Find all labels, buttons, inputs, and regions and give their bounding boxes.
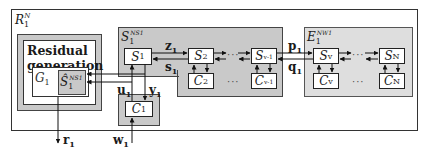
signal-z1: z1 [165,40,177,54]
signal-s1: s1 [165,61,177,75]
ellipsis-c-row-1: ··· [227,76,240,87]
signal-y1: y1 [149,84,162,98]
signal-u1: u1 [117,84,131,98]
signal-r1: r1 [63,134,75,148]
ellipsis-s-row-2: ··· [352,49,365,60]
connection-lines [0,0,427,149]
signal-p1: p1 [288,40,302,54]
ellipsis-s-row-1: ··· [227,49,240,60]
ellipsis-c-row-2: ··· [352,76,365,87]
signal-q1: q1 [288,61,302,75]
signal-w1: w1 [113,134,129,148]
